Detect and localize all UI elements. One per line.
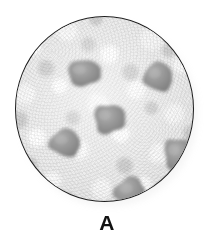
figure-panel: A bbox=[0, 0, 214, 242]
colony-spot-4 bbox=[43, 123, 89, 163]
figure-label: A bbox=[0, 211, 214, 235]
colony-spot-5 bbox=[157, 131, 194, 177]
dish-circle bbox=[15, 16, 194, 202]
colony-spot-6 bbox=[108, 171, 154, 202]
colony-spot-2 bbox=[137, 56, 181, 98]
specimen-dish bbox=[15, 16, 194, 202]
colony-spot-1 bbox=[61, 53, 107, 93]
colony-spot-3 bbox=[87, 97, 131, 141]
